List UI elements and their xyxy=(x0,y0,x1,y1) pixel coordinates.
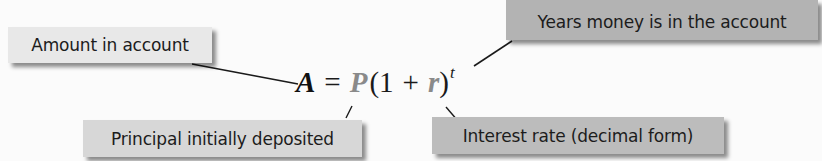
label-years-in-account: Years money is in the account xyxy=(506,0,818,40)
leader-years xyxy=(474,41,512,66)
label-years-text: Years money is in the account xyxy=(537,12,786,32)
formula-one: 1 xyxy=(379,66,394,99)
formula-close-paren: ) xyxy=(439,66,449,99)
leader-amount xyxy=(192,64,298,84)
cropped-text-line xyxy=(0,0,420,4)
formula-open-paren: ( xyxy=(367,66,379,99)
formula-plus: + xyxy=(394,66,428,99)
formula-variable-p: P xyxy=(350,66,368,99)
label-amount-text: Amount in account xyxy=(31,35,188,55)
formula-equals: = xyxy=(315,66,349,99)
formula-variable-r: r xyxy=(428,66,439,99)
leader-principal xyxy=(346,106,352,118)
compound-interest-formula: A = P ( 1 + r ) t xyxy=(296,66,455,106)
label-interest-rate: Interest rate (decimal form) xyxy=(432,117,724,154)
label-principal: Principal initially deposited xyxy=(83,120,362,157)
label-interest-text: Interest rate (decimal form) xyxy=(463,126,694,146)
formula-exponent-t: t xyxy=(449,63,455,83)
label-principal-text: Principal initially deposited xyxy=(111,129,334,149)
formula-variable-a: A xyxy=(296,66,315,99)
label-amount-in-account: Amount in account xyxy=(8,27,212,63)
